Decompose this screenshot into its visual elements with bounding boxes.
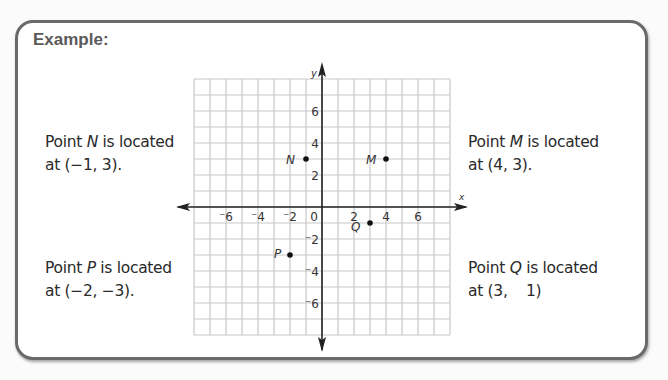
- point-label-m: M: [366, 153, 377, 167]
- axes: xy: [176, 62, 468, 352]
- y-tick-label: ⁻4: [305, 265, 319, 279]
- x-tick-label: ⁻6: [219, 210, 233, 224]
- point-label-n: N: [286, 153, 295, 167]
- x-tick-label: 0: [310, 210, 318, 224]
- y-tick-label: 6: [311, 105, 319, 119]
- point-q: [367, 220, 373, 226]
- point-m: [383, 156, 389, 162]
- y-tick-label: ⁻6: [305, 297, 319, 311]
- x-tick-label: 4: [382, 210, 390, 224]
- point-n: [303, 156, 309, 162]
- point-p: [287, 252, 293, 258]
- tick-labels: ⁻6⁻4⁻20246642⁻2⁻4⁻6: [219, 105, 422, 311]
- y-tick-label: 4: [311, 137, 319, 151]
- coordinate-plane: xy ⁻6⁻4⁻20246642⁻2⁻4⁻6 NMQP: [0, 0, 668, 380]
- point-label-p: P: [274, 247, 282, 261]
- point-label-q: Q: [351, 220, 360, 234]
- y-tick-label: ⁻2: [305, 233, 319, 247]
- x-tick-label: ⁻2: [283, 210, 297, 224]
- y-axis-label: y: [310, 68, 318, 79]
- x-axis-label: x: [458, 192, 465, 202]
- x-tick-label: ⁻4: [251, 210, 265, 224]
- x-tick-label: 6: [414, 210, 422, 224]
- y-tick-label: 2: [311, 169, 319, 183]
